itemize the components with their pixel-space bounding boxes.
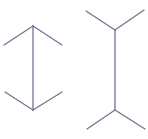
fin-line (4, 26, 33, 45)
fin-line (33, 92, 62, 110)
fin-line (33, 26, 62, 45)
illusion-diagram (0, 0, 148, 139)
fin-line (5, 92, 33, 110)
fin-line (86, 11, 115, 30)
figure-arrows-inward (4, 26, 62, 110)
figure-arrows-outward (86, 10, 145, 129)
fin-line (115, 10, 144, 30)
fin-line (87, 110, 115, 129)
fin-line (115, 110, 145, 129)
